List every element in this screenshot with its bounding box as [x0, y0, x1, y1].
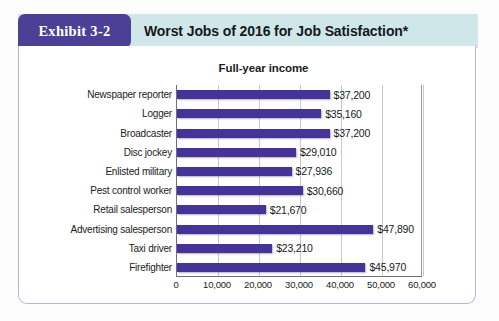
x-tick-label: 0 — [173, 279, 178, 290]
bar-row: $29,010 — [177, 148, 337, 157]
x-tick-label: 10,000 — [203, 279, 231, 290]
x-tick-label: 50,000 — [367, 279, 395, 290]
bar-value-label: $21,670 — [270, 204, 307, 216]
x-tick-label: 40,000 — [326, 279, 354, 290]
x-tick-label: 30,000 — [285, 279, 313, 290]
bar-row: $45,970 — [177, 263, 406, 272]
exhibit-header: Exhibit 3-2 Worst Jobs of 2016 for Job S… — [18, 14, 478, 48]
x-tick-label: 20,000 — [244, 279, 272, 290]
bar — [177, 90, 330, 99]
bar — [177, 263, 365, 272]
bar-row: $37,200 — [177, 129, 370, 138]
plot-area: $37,200$35,160$37,200$29,010$27,936$30,6… — [176, 85, 422, 277]
category-label: Logger — [142, 109, 172, 118]
category-label: Newspaper reporter — [87, 90, 172, 99]
bar — [177, 148, 296, 157]
bar-value-label: $23,210 — [276, 242, 313, 254]
chart-title: Full-year income — [0, 62, 499, 74]
bar — [177, 129, 330, 138]
bar — [177, 205, 266, 214]
category-label: Advertising salesperson — [70, 225, 172, 234]
category-label: Disc jockey — [124, 148, 172, 157]
exhibit-number-tab: Exhibit 3-2 — [18, 14, 131, 48]
bar — [177, 225, 373, 234]
bar-value-label: $37,200 — [334, 89, 371, 101]
bar-value-label: $47,890 — [377, 223, 414, 235]
bar — [177, 109, 321, 118]
category-label: Broadcaster — [120, 129, 172, 138]
bar-value-label: $29,010 — [300, 146, 337, 158]
category-label: Enlisted military — [105, 167, 172, 176]
bar-row: $27,936 — [177, 167, 332, 176]
category-label: Taxi driver — [129, 244, 172, 253]
exhibit-number-label: Exhibit 3-2 — [38, 23, 110, 40]
category-label: Firefighter — [129, 263, 172, 272]
bar-row: $47,890 — [177, 225, 414, 234]
bar — [177, 186, 303, 195]
exhibit-title: Worst Jobs of 2016 for Job Satisfaction* — [144, 14, 408, 48]
bar-value-label: $37,200 — [334, 127, 371, 139]
bar-value-label: $27,936 — [296, 165, 333, 177]
bar-row: $23,210 — [177, 244, 313, 253]
bar-value-label: $45,970 — [369, 261, 406, 273]
gridline — [382, 85, 383, 276]
x-axis-ticks: 010,00020,00030,00040,00050,00060,000 — [176, 279, 422, 295]
bar — [177, 167, 292, 176]
bar — [177, 244, 272, 253]
bar-value-label: $35,160 — [325, 108, 362, 120]
bar-value-label: $30,660 — [307, 185, 344, 197]
category-label: Retail salesperson — [93, 205, 172, 214]
bar-row: $35,160 — [177, 109, 362, 118]
category-axis-labels: Newspaper reporterLoggerBroadcasterDisc … — [30, 85, 172, 277]
bar-row: $21,670 — [177, 205, 306, 214]
chart-title-text: Full-year income — [219, 62, 309, 74]
plot-right-edge — [421, 85, 422, 276]
footnote — [20, 312, 460, 321]
x-tick-label: 60,000 — [408, 279, 436, 290]
bar-row: $37,200 — [177, 90, 370, 99]
category-label: Pest control worker — [90, 186, 172, 195]
bar-row: $30,660 — [177, 186, 343, 195]
